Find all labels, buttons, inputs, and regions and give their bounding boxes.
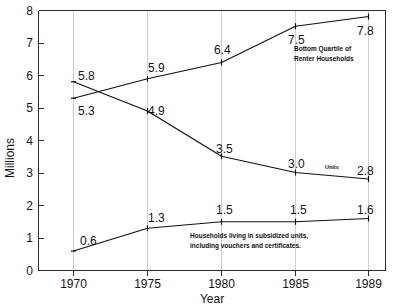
data-label-subsidized-1980: 1.5 bbox=[216, 203, 233, 217]
x-tick-label-1985: 1985 bbox=[282, 277, 309, 291]
annotation-bottom-quartile-line2: Renter Households bbox=[294, 55, 354, 62]
data-label-units-1989: 2.8 bbox=[357, 164, 374, 178]
data-label-subsidized-1989: 1.6 bbox=[357, 203, 374, 217]
y-tick-label-5: 5 bbox=[26, 101, 33, 115]
y-tick-label-6: 6 bbox=[26, 69, 33, 83]
series-units bbox=[71, 82, 369, 182]
y-tick-label-7: 7 bbox=[26, 36, 33, 50]
data-label-subsidized-1975: 1.3 bbox=[148, 211, 165, 225]
y-tick-label-2: 2 bbox=[26, 199, 33, 213]
data-label-quartile-1975: 5.9 bbox=[148, 61, 165, 75]
data-label-units-1985: 3.0 bbox=[288, 157, 305, 171]
data-label-subsidized-1970: 0.6 bbox=[80, 234, 97, 248]
y-axis-ticks bbox=[39, 11, 44, 271]
annotation-units-label: Units bbox=[325, 164, 339, 170]
data-labels-bottom-quartile: 5.3 5.9 6.4 7.5 7.8 bbox=[78, 24, 374, 118]
data-label-quartile-1980: 6.4 bbox=[214, 43, 231, 57]
line-chart: 8 7 6 5 4 3 2 1 0 Millions 1970 1975 198… bbox=[0, 0, 400, 308]
x-tick-label-1980: 1980 bbox=[208, 277, 235, 291]
y-axis-tick-labels: 8 7 6 5 4 3 2 1 0 bbox=[26, 4, 33, 278]
data-label-quartile-1989: 7.8 bbox=[357, 24, 374, 38]
data-label-units-1970: 5.8 bbox=[78, 69, 95, 83]
y-tick-label-0: 0 bbox=[26, 264, 33, 278]
y-tick-label-3: 3 bbox=[26, 166, 33, 180]
x-axis-ticks bbox=[74, 271, 369, 276]
data-label-units-1980: 3.5 bbox=[216, 142, 233, 156]
data-label-units-1975: 4.9 bbox=[148, 104, 165, 118]
x-tick-label-1975: 1975 bbox=[134, 277, 161, 291]
y-axis-title: Millions bbox=[3, 138, 17, 178]
annotation-subsidized-line1: Households living in subsidized units, bbox=[190, 232, 308, 240]
annotation-bottom-quartile-line1: Bottom Quartile of bbox=[294, 45, 352, 53]
annotation-subsidized-line2: including vouchers and certificates. bbox=[190, 242, 301, 250]
y-tick-label-1: 1 bbox=[26, 231, 33, 245]
x-tick-label-1989: 1989 bbox=[355, 277, 382, 291]
y-tick-label-8: 8 bbox=[26, 4, 33, 18]
data-label-subsidized-1985: 1.5 bbox=[290, 203, 307, 217]
data-label-quartile-1970: 5.3 bbox=[78, 104, 95, 118]
x-axis-tick-labels: 1970 1975 1980 1985 1989 bbox=[60, 277, 382, 291]
x-tick-label-1970: 1970 bbox=[60, 277, 87, 291]
y-tick-label-4: 4 bbox=[26, 134, 33, 148]
x-axis-title: Year bbox=[200, 292, 224, 306]
chart-container: 8 7 6 5 4 3 2 1 0 Millions 1970 1975 198… bbox=[0, 0, 400, 308]
